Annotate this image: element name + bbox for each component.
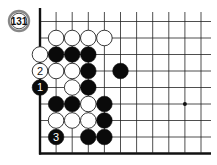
- black-stone: [81, 129, 97, 145]
- move-number: 2: [37, 65, 43, 77]
- white-stone: [64, 113, 80, 129]
- white-stone: [81, 30, 97, 46]
- black-stone: [81, 47, 97, 63]
- problem-number-badge: 131: [9, 11, 29, 31]
- move-number: 3: [53, 131, 59, 143]
- star-points: [183, 102, 187, 106]
- move-number: 1: [37, 81, 43, 93]
- board-grid: [39, 8, 211, 155]
- black-stone: [97, 129, 113, 145]
- go-board-diagram: 213 131: [0, 0, 217, 165]
- black-stone: [97, 96, 113, 112]
- white-stone: [81, 96, 97, 112]
- white-stone: [97, 30, 113, 46]
- black-stone: [64, 47, 80, 63]
- white-stone: [48, 113, 64, 129]
- black-stone: [48, 47, 64, 63]
- black-stone: [64, 96, 80, 112]
- white-stone: [64, 80, 80, 96]
- star-point: [183, 102, 187, 106]
- white-stone: [32, 47, 48, 63]
- black-stone: [81, 80, 97, 96]
- white-stone-move-2: 2: [32, 63, 48, 79]
- black-stone: [81, 63, 97, 79]
- white-stone: [48, 30, 64, 46]
- white-stone: [64, 63, 80, 79]
- problem-number: 131: [11, 16, 28, 27]
- black-stone-move-3: 3: [48, 129, 64, 145]
- black-stone: [48, 96, 64, 112]
- black-stone: [113, 63, 129, 79]
- white-stone: [48, 63, 64, 79]
- black-stone: [97, 113, 113, 129]
- white-stone: [64, 30, 80, 46]
- black-stone-move-1: 1: [32, 80, 48, 96]
- white-stone: [81, 113, 97, 129]
